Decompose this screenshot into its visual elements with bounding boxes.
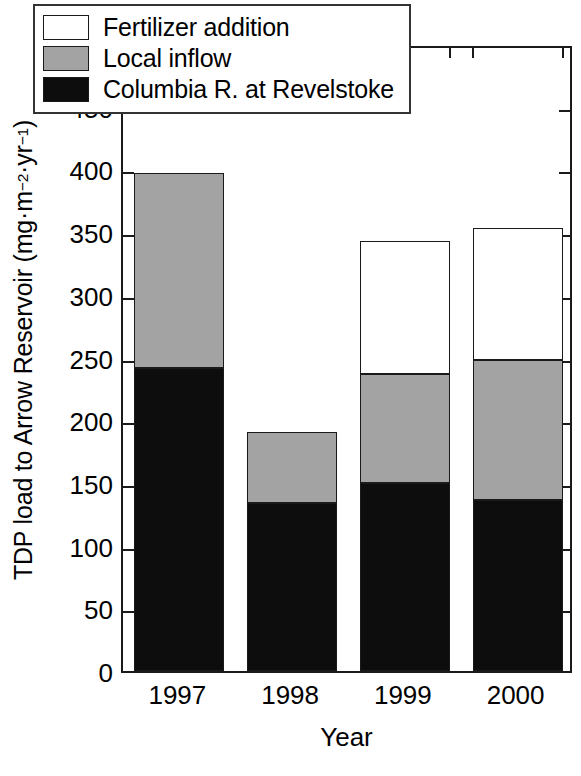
y-axis-tick-label: 50	[38, 597, 113, 623]
bar-segment[interactable]	[473, 228, 563, 360]
legend-item-label: Local inflow	[103, 46, 231, 71]
x-axis-tick-label: 1999	[374, 682, 432, 708]
legend-item[interactable]: Columbia R. at Revelstoke	[43, 74, 401, 105]
y-axis-tick-label: 350	[38, 221, 113, 247]
x-axis-title: Year	[121, 724, 572, 750]
y-axis-tick-mark	[123, 423, 134, 425]
legend-item[interactable]: Fertilizer addition	[43, 12, 401, 43]
y-axis-tick-labels: 050100150200250300350400450500	[38, 0, 113, 776]
bar-segment[interactable]	[247, 503, 337, 671]
legend-swatch-icon	[43, 46, 89, 71]
figure: TDP load to Arrow Reservoir (mg·m−2·yr−1…	[0, 0, 581, 776]
y-axis-tick-label: 400	[38, 158, 113, 184]
x-axis-tick-mark	[562, 48, 564, 58]
y-axis-tick-label: 250	[38, 347, 113, 373]
y-axis-tick-label: 200	[38, 409, 113, 435]
legend-item-label: Fertilizer addition	[103, 15, 290, 40]
y-axis-tick-mark	[123, 235, 134, 237]
legend-swatch-icon	[43, 15, 89, 40]
bar-segment[interactable]	[360, 374, 450, 483]
legend: Fertilizer additionLocal inflowColumbia …	[33, 4, 411, 114]
y-axis-tick-label: 150	[38, 472, 113, 498]
x-axis-tick-mark	[449, 48, 451, 58]
bar-group[interactable]	[473, 44, 563, 671]
y-axis-tick-mark	[123, 172, 134, 174]
x-axis-tick-label: 1998	[261, 682, 319, 708]
y-axis-tick-label: 300	[38, 284, 113, 310]
x-axis-tick-label: 2000	[487, 682, 545, 708]
legend-item-label: Columbia R. at Revelstoke	[103, 77, 394, 102]
x-axis-tick-mark	[472, 48, 474, 58]
y-axis-tick-label: 100	[38, 535, 113, 561]
bar-group[interactable]	[134, 44, 224, 671]
y-axis-tick-mark	[123, 486, 134, 488]
bar-segment[interactable]	[473, 360, 563, 500]
y-axis-title-mid: ·yr	[9, 145, 38, 174]
legend-swatch-icon	[43, 77, 89, 102]
bar-segment[interactable]	[134, 368, 224, 671]
bar-group[interactable]	[360, 44, 450, 671]
x-axis-tick-label: 1997	[148, 682, 206, 708]
legend-item[interactable]: Local inflow	[43, 43, 401, 74]
y-axis-title-prefix: TDP load to Arrow Reservoir (mg·m	[9, 191, 38, 580]
bar-segment[interactable]	[134, 173, 224, 367]
bar-segment[interactable]	[247, 432, 337, 503]
y-axis-tick-mark	[123, 611, 134, 613]
y-axis-tick-mark	[123, 298, 134, 300]
y-axis-tick-label: 0	[38, 660, 113, 686]
plot-inner	[123, 48, 570, 671]
bar-segment[interactable]	[360, 241, 450, 374]
bar-segment[interactable]	[360, 483, 450, 671]
bar-segment[interactable]	[473, 500, 563, 671]
y-axis-tick-mark	[123, 549, 134, 551]
plot-area	[121, 46, 572, 673]
bar-group[interactable]	[247, 44, 337, 671]
y-axis-title-suffix: )	[9, 120, 38, 128]
y-axis-tick-mark	[123, 361, 134, 363]
